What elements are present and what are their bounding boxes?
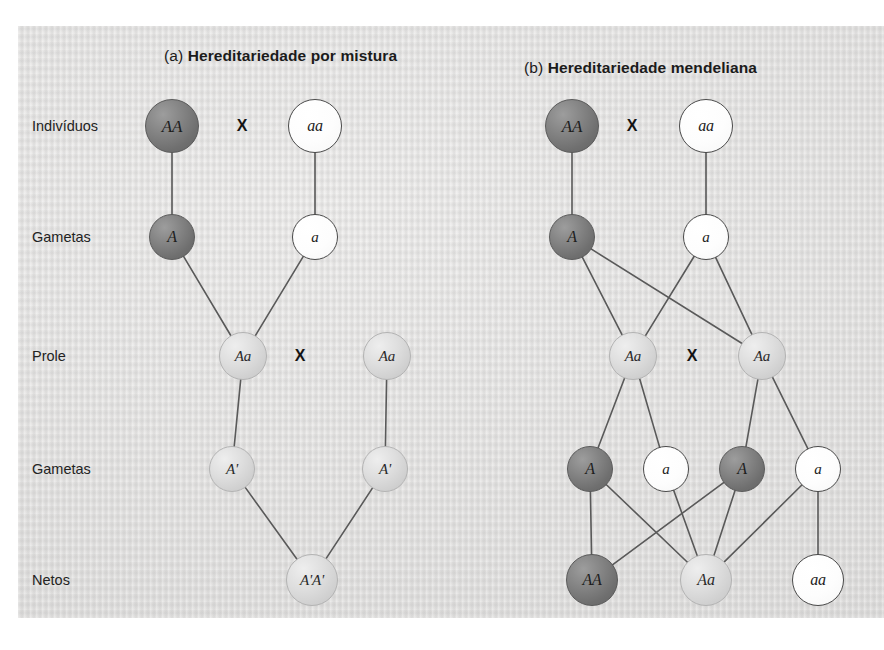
diagram-plate: (a) Hereditariedade por mistura (b) Here… — [18, 26, 884, 618]
node-a-gam-1: A — [149, 214, 195, 260]
node-a-gam-2: a — [292, 214, 338, 260]
edge-a-gam2-1-to-a-net-1 — [245, 487, 298, 560]
edge-b-gam-1-to-b-pro-2 — [591, 249, 743, 344]
genotype-label: A'A' — [300, 573, 324, 588]
edge-a-gam-1-to-a-pro-1 — [183, 256, 231, 336]
genotype-label: A' — [379, 462, 391, 477]
node-b-ind-1: AA — [545, 99, 599, 153]
node-b-net-2: Aa — [680, 554, 732, 606]
node-b-gam2-2: a — [643, 446, 689, 492]
panel-b-title: (b) Hereditariedade mendeliana — [524, 59, 757, 77]
genotype-label: Aa — [625, 349, 641, 364]
panel-a-title: (a) Hereditariedade por mistura — [164, 47, 397, 65]
row-label-prole: Prole — [32, 348, 66, 364]
genotype-label: A — [737, 461, 747, 477]
genotype-label: AA — [162, 118, 182, 135]
node-a-ind-1: AA — [145, 99, 199, 153]
node-b-gam2-4: a — [795, 446, 841, 492]
panel-b-heading: Hereditariedade mendeliana — [548, 59, 757, 76]
edge-b-pro-2-to-b-gam2-4 — [772, 377, 808, 450]
node-a-ind-2: aa — [288, 99, 342, 153]
genotype-label: AA — [582, 572, 601, 588]
node-b-gam-2: a — [683, 214, 729, 260]
edge-b-pro-2-to-b-gam2-3 — [746, 379, 758, 448]
edge-b-gam-1-to-b-pro-1 — [582, 257, 622, 336]
genotype-label: A' — [226, 462, 238, 477]
genotype-label: AA — [562, 118, 582, 135]
row-label-netos: Netos — [32, 572, 70, 588]
node-a-pro-2: Aa — [363, 332, 411, 380]
edge-b-gam2-3-to-b-net-2 — [714, 490, 736, 556]
node-b-pro-2: Aa — [738, 332, 786, 380]
edge-a-pro-2-to-a-gam2-2 — [385, 379, 386, 447]
genotype-label: a — [702, 230, 709, 245]
panel-a-heading: Hereditariedade por mistura — [188, 47, 397, 64]
node-a-pro-1: Aa — [219, 332, 267, 380]
genotype-label: a — [311, 230, 318, 245]
edge-b-gam2-2-to-b-net-2 — [673, 490, 697, 557]
edge-b-gam-2-to-b-pro-1 — [645, 256, 694, 337]
genotype-label: Aa — [235, 349, 251, 364]
node-b-gam2-1: A — [567, 446, 613, 492]
edge-b-gam-2-to-b-pro-2 — [715, 257, 752, 335]
genotype-label: aa — [307, 118, 323, 134]
edge-b-gam2-1-to-b-net-1 — [590, 491, 591, 555]
edge-b-gam2-4-to-b-net-2 — [724, 484, 803, 562]
node-b-gam-1: A — [549, 214, 595, 260]
edge-b-gam2-3-to-b-net-1 — [612, 482, 724, 565]
genotype-label: aa — [810, 572, 826, 588]
cross-symbol-b-0: X — [627, 117, 638, 135]
node-b-net-3: aa — [792, 554, 844, 606]
row-label-gametas-2: Gametas — [32, 461, 91, 477]
node-b-ind-2: aa — [679, 99, 733, 153]
node-b-pro-1: Aa — [609, 332, 657, 380]
cross-symbol-b-1: X — [687, 347, 698, 365]
panel-b-tag: (b) — [524, 59, 543, 76]
cross-symbol-a-0: X — [237, 117, 248, 135]
row-label-gametas-1: Gametas — [32, 229, 91, 245]
cross-symbol-a-1: X — [295, 347, 306, 365]
genotype-label: Aa — [754, 349, 770, 364]
genotype-label: A — [567, 229, 577, 245]
genotype-label: a — [662, 462, 669, 477]
genotype-label: Aa — [379, 349, 395, 364]
edge-a-gam2-2-to-a-net-1 — [326, 487, 373, 559]
node-a-gam2-2: A' — [362, 446, 408, 492]
node-a-gam2-1: A' — [209, 446, 255, 492]
node-b-net-1: AA — [566, 554, 618, 606]
node-b-gam2-3: A — [719, 446, 765, 492]
genotype-label: A — [585, 461, 595, 477]
genotype-label: a — [814, 462, 821, 477]
node-a-net-1: A'A' — [286, 554, 338, 606]
row-label-individuos: Indivíduos — [32, 118, 98, 134]
edge-a-gam-2-to-a-pro-1 — [255, 256, 304, 337]
genotype-label: Aa — [697, 572, 714, 588]
edge-b-pro-1-to-b-gam2-2 — [639, 378, 659, 448]
genetics-figure: (a) Hereditariedade por mistura (b) Here… — [0, 0, 884, 650]
panel-a-tag: (a) — [164, 47, 183, 64]
edge-b-pro-1-to-b-gam2-1 — [598, 378, 625, 449]
genotype-label: A — [167, 229, 177, 245]
genotype-label: aa — [698, 118, 714, 134]
edge-a-pro-1-to-a-gam2-1 — [234, 379, 241, 447]
